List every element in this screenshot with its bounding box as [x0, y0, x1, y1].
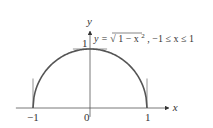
- y-axis-label: y: [86, 15, 92, 27]
- equation-lhs: y =: [93, 33, 110, 44]
- equation-radicand: 1 − x: [118, 33, 139, 44]
- x-tick-label: −1: [27, 111, 39, 123]
- chart: x y −1011 y = √ 1 − x 2 , −1 ≤ x ≤ 1: [0, 0, 213, 128]
- x-tick-label: 0: [84, 111, 90, 123]
- equation-rest: , −1 ≤ x ≤ 1: [147, 33, 194, 44]
- tick-labels: −1011: [27, 37, 151, 123]
- x-tick-label: 1: [145, 111, 151, 123]
- sqrt-symbol: √: [110, 33, 116, 44]
- axes: x y: [16, 15, 178, 117]
- x-axis-label: x: [172, 101, 178, 113]
- equation-annotation: y = √ 1 − x 2 , −1 ≤ x ≤ 1: [93, 29, 194, 44]
- y-tick-label: 1: [82, 37, 88, 49]
